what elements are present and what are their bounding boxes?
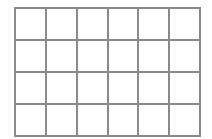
grid-cell (45, 7, 76, 39)
grid-cell (137, 39, 168, 71)
grid-cell (45, 103, 76, 135)
grid-cell (168, 7, 199, 39)
grid-cell (107, 39, 138, 71)
grid-cell (14, 7, 45, 39)
grid-cell (45, 71, 76, 103)
grid-cell (76, 7, 107, 39)
grid-cell (107, 7, 138, 39)
grid-cell (168, 39, 199, 71)
grid-cell (107, 103, 138, 135)
grid-cell (137, 7, 168, 39)
grid-cell (14, 71, 45, 103)
grid-cell (107, 71, 138, 103)
grid-cell (76, 71, 107, 103)
grid-cell (76, 103, 107, 135)
grid-cell (76, 39, 107, 71)
grid-cell (168, 71, 199, 103)
grid-cell (168, 103, 199, 135)
grid-cell (14, 39, 45, 71)
empty-grid (14, 7, 201, 137)
grid-cell (14, 103, 45, 135)
grid-cell (137, 103, 168, 135)
grid-cell (137, 71, 168, 103)
grid-cell (45, 39, 76, 71)
